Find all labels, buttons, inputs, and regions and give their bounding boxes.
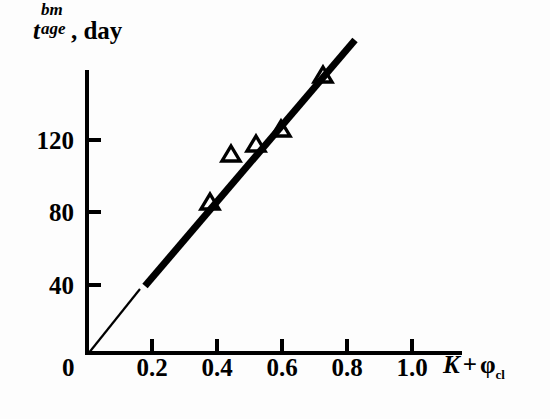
y-tick-label-80: 80 — [8, 200, 74, 225]
y-axis-title-scripts: bmage — [40, 14, 41, 39]
data-point-marker — [247, 136, 265, 151]
x-tick-label-1: 0.4 — [201, 355, 232, 380]
x-tick-label-2: 0.6 — [266, 355, 297, 380]
x-axis-title-phi-subscript: cl — [496, 367, 505, 382]
y-axis-title: tbmage, day — [33, 14, 122, 43]
x-axis-title: K+φcl — [443, 352, 505, 381]
y-tick-label-40: 40 — [8, 273, 74, 298]
x-axis-title-variable: K — [443, 351, 460, 378]
chart-figure: tbmage, day K+φcl 0 0.2 0.4 0.6 0.8 1.0 … — [0, 0, 550, 419]
data-point-marker — [222, 146, 240, 161]
y-axis-title-units: , day — [71, 17, 122, 44]
y-tick-label-120: 120 — [8, 128, 74, 153]
origin-tick-label: 0 — [62, 355, 75, 380]
fit-line-thin-segment — [88, 289, 140, 354]
x-axis-title-phi: φ — [480, 351, 496, 378]
x-tick-label-0: 0.2 — [136, 355, 167, 380]
x-axis-title-operator: + — [463, 351, 477, 378]
y-axis-title-subscript: age — [41, 20, 66, 37]
x-tick-label-4: 1.0 — [396, 355, 427, 380]
y-axis-title-variable: t — [33, 17, 40, 44]
fit-line-thick-segment — [145, 40, 355, 286]
y-axis-title-superscript: bm — [41, 1, 63, 18]
x-tick-label-3: 0.8 — [331, 355, 362, 380]
